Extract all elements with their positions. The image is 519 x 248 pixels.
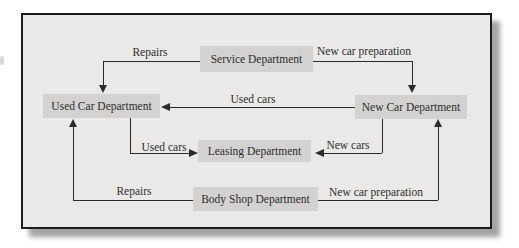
edge-label-repairs-top: Repairs	[132, 46, 167, 58]
node-new-car-department: New Car Department	[355, 95, 467, 119]
edge-label-new-car-preparation-bottom: New car preparation	[329, 186, 423, 198]
edge-bodyshop-to-used-vline	[73, 127, 74, 200]
edge-service-to-new-vline	[412, 61, 413, 86]
edge-label-new-car-preparation-top: New car preparation	[317, 45, 411, 57]
node-leasing-department: Leasing Department	[198, 140, 311, 162]
node-body-shop-department: Body Shop Department	[193, 187, 318, 211]
edge-service-to-used-hline	[103, 61, 200, 62]
edge-label-repairs-bottom: Repairs	[116, 185, 151, 197]
arrowhead-left-into-leasing-icon	[315, 149, 324, 157]
edge-label-used-cars-mid: Used cars	[230, 93, 275, 105]
node-service-department: Service Department	[200, 46, 313, 72]
arrowhead-left-into-used-icon	[161, 103, 170, 111]
page-margin-smudge	[0, 56, 4, 65]
edge-used-to-leasing-hline	[130, 153, 189, 154]
arrowhead-right-into-leasing-icon	[189, 149, 198, 157]
arrowhead-down-into-new-icon	[408, 85, 416, 93]
edge-label-new-cars: New cars	[326, 139, 369, 151]
edge-bodyshop-to-used-hline	[73, 200, 193, 201]
edge-new-to-leasing-hline	[324, 153, 382, 154]
edge-bodyshop-to-new-hline	[318, 200, 438, 201]
edge-service-to-new-hline	[313, 61, 412, 62]
edge-service-to-used-vline	[103, 61, 104, 86]
edge-used-to-leasing-vline	[130, 118, 131, 153]
diagram-canvas: Service Department Used Car Department N…	[0, 0, 519, 248]
arrowhead-down-into-used-icon	[99, 85, 107, 93]
arrowhead-up-into-new-icon	[434, 119, 442, 127]
edge-new-to-leasing-vline	[382, 119, 383, 153]
edge-new-to-used-hline	[170, 107, 355, 108]
node-used-car-department: Used Car Department	[43, 94, 160, 118]
arrowhead-up-into-used-icon	[69, 119, 77, 127]
edge-bodyshop-to-new-vline	[438, 127, 439, 200]
edge-label-used-cars-lower: Used cars	[141, 141, 186, 153]
